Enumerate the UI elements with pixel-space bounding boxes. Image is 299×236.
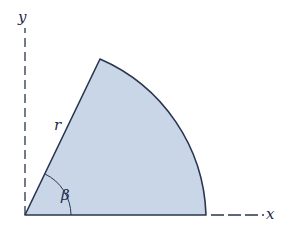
circular-sector: [25, 59, 206, 215]
x-axis-label: x: [266, 205, 275, 223]
sector-diagram: y x r β: [0, 0, 299, 236]
y-axis-label: y: [17, 8, 27, 26]
angle-label: β: [60, 186, 70, 204]
radius-label: r: [54, 116, 62, 134]
